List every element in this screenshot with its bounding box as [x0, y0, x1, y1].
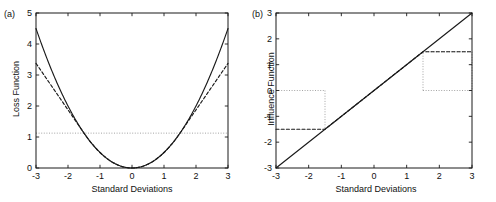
x-tick-label: 1 — [404, 171, 409, 181]
x-tick-label: -3 — [272, 171, 280, 181]
y-tick-label: 1 — [267, 60, 272, 70]
y-tick-label: 3 — [27, 70, 32, 80]
y-tick-label: 0 — [267, 86, 272, 96]
x-tick-label: 3 — [225, 171, 230, 181]
huber-loss — [36, 63, 228, 168]
figure-container: (a) Loss Function Standard Deviations -3… — [0, 0, 496, 202]
x-tick-label: 3 — [469, 171, 474, 181]
y-tick-label: 3 — [267, 8, 272, 18]
y-tick-label: 1 — [27, 132, 32, 142]
y-tick-label: 2 — [267, 34, 272, 44]
x-tick-label: -1 — [96, 171, 104, 181]
x-tick-label: 0 — [371, 171, 376, 181]
x-tick-label: -3 — [32, 171, 40, 181]
y-tick-label: 2 — [27, 101, 32, 111]
y-tick-label: -1 — [264, 112, 272, 122]
x-tick-label: 0 — [129, 171, 134, 181]
x-tick-label: -2 — [305, 171, 313, 181]
panel-b: (b) Influence Function Standard Deviatio… — [248, 0, 496, 202]
y-tick-label: 4 — [27, 39, 32, 49]
y-tick-label: 0 — [27, 163, 32, 173]
x-tick-label: 2 — [193, 171, 198, 181]
x-tick-label: 1 — [161, 171, 166, 181]
y-tick-label: -3 — [264, 163, 272, 173]
y-tick-label: 5 — [27, 8, 32, 18]
quadratic-loss — [36, 29, 228, 169]
y-tick-label: -2 — [264, 137, 272, 147]
panel-a: (a) Loss Function Standard Deviations -3… — [0, 0, 248, 202]
x-tick-label: -1 — [337, 171, 345, 181]
panel-b-plot: -3-2-10123-3-2-10123 — [248, 0, 496, 202]
x-tick-label: 2 — [437, 171, 442, 181]
panel-a-plot: -3-2-10123012345 — [0, 0, 248, 202]
plot-frame — [36, 13, 228, 168]
x-tick-label: -2 — [64, 171, 72, 181]
